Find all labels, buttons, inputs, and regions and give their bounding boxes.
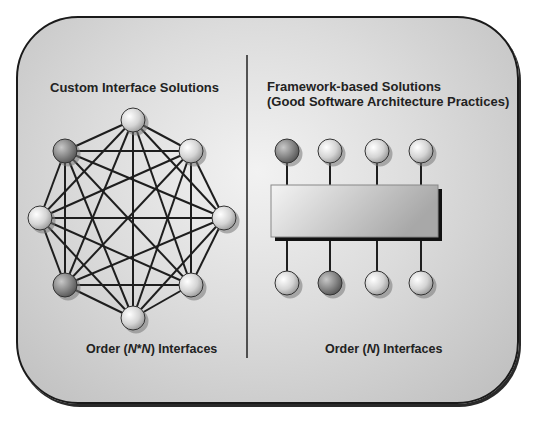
caption-prefix: Order ( [86, 342, 128, 356]
mesh-node-bottom [121, 306, 149, 334]
mesh-node-top-left [53, 139, 81, 167]
framework-bottom-node-1 [275, 271, 303, 299]
diagram-canvas [0, 0, 537, 421]
mesh-node-bottom-left [53, 273, 81, 301]
framework-bottom-node-2 [318, 271, 346, 299]
mesh-node-top-right [179, 139, 207, 167]
caption-var-n2: N [142, 342, 151, 356]
right-panel-title: Framework-based Solutions (Good Software… [267, 79, 509, 109]
mesh-node-right [212, 206, 240, 234]
caption-var-n: N [367, 342, 376, 356]
framework-top-node-4 [409, 139, 437, 167]
left-panel-caption: Order (N*N) Interfaces [86, 342, 217, 356]
caption-suffix: ) Interfaces [151, 342, 218, 356]
caption-suffix: ) Interfaces [376, 342, 443, 356]
right-panel-caption: Order (N) Interfaces [325, 342, 442, 356]
right-panel-title-line1: Framework-based Solutions [267, 79, 509, 94]
framework-box [271, 185, 438, 237]
right-panel-title-line2: (Good Software Architecture Practices) [267, 94, 509, 109]
left-panel-title: Custom Interface Solutions [50, 80, 219, 95]
caption-prefix: Order ( [325, 342, 367, 356]
framework-top-node-2 [318, 139, 346, 167]
mesh-node-top [121, 108, 149, 136]
mesh-node-left [28, 206, 56, 234]
framework-top-node-1 [275, 139, 303, 167]
framework-top-node-3 [365, 139, 393, 167]
framework-bottom-node-3 [365, 271, 393, 299]
mesh-edge [133, 120, 224, 218]
framework-bottom-node-4 [409, 271, 437, 299]
caption-var-n1: N [128, 342, 137, 356]
mesh-edge [133, 218, 224, 318]
mesh-node-bottom-right [179, 273, 207, 301]
